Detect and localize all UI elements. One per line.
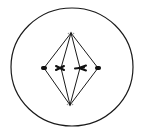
metaphase-diagram [0, 0, 142, 131]
spindle-fiber [70, 68, 80, 105]
cell-membrane [11, 8, 133, 126]
chromosomes [42, 66, 101, 71]
spindle-fibers [44, 33, 98, 105]
chromosome-2 [56, 66, 64, 70]
diagram-canvas [0, 0, 142, 131]
spindle-fiber [44, 33, 71, 68]
chromosome-4 [96, 67, 101, 70]
spindle-fiber [70, 68, 98, 105]
spindle-fiber [44, 68, 70, 105]
spindle-fiber [61, 33, 71, 68]
chromosome-1 [42, 67, 47, 70]
chromosome-3 [75, 66, 86, 71]
